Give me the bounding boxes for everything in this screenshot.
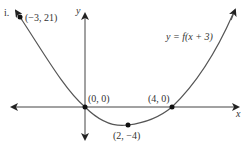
point-origin — [83, 105, 88, 110]
point-label-neg3-21: (−3, 21) — [25, 12, 57, 24]
point-vertex — [126, 123, 131, 128]
point-neg3-21 — [18, 15, 23, 20]
point-label-vertex: (2, −4) — [113, 130, 140, 142]
point-label-origin: (0, 0) — [88, 93, 110, 105]
x-axis-label: x — [235, 108, 241, 119]
curve-arrow-right — [231, 10, 235, 20]
y-axis-label: y — [75, 5, 81, 16]
problem-label: i. — [4, 7, 9, 18]
graph: i. y x y = f(x + 3) (−3, 21) (0, 0) (2, … — [0, 0, 244, 143]
point-label-4-0: (4, 0) — [148, 93, 170, 105]
point-4-0 — [170, 105, 175, 110]
curve-label: y = f(x + 3) — [165, 31, 213, 43]
